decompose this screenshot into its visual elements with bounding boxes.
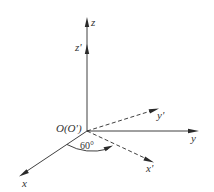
x-prime-axis [87,131,154,163]
y-prime-axis-label: y' [156,109,165,121]
x-axis-label: x [21,177,27,189]
angle-label: 60° [80,140,94,151]
z-prime-axis-label: z' [74,41,82,53]
z-prime-axis [85,44,89,54]
z-axis-label: z [90,16,96,28]
z-arrow-icon [85,17,89,27]
y-prime-axis [87,109,159,132]
z-prime-arrow-icon [85,44,89,54]
z-axis [85,17,89,131]
y-axis-label: y [190,132,196,144]
y-axis [87,129,199,133]
origin-label: O(O') [56,122,82,135]
angle-arc-arrow-icon [104,146,114,152]
x-prime-axis-label: x' [145,162,154,174]
coordinate-diagram: z z' y y' x' x 60° O(O') [0,0,214,192]
x-axis [19,131,87,177]
